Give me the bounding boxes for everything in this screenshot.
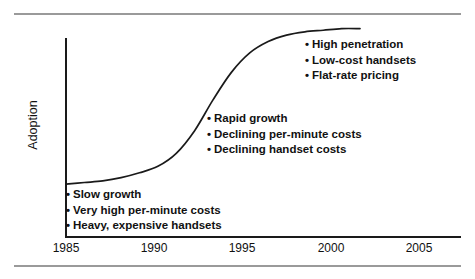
bullet-item: •Declining per-minute costs: [207, 127, 362, 143]
bullet-dot-icon: •: [305, 37, 312, 53]
bullet-label: Low-cost handsets: [312, 54, 416, 66]
bullet-dot-icon: •: [66, 218, 73, 234]
bullet-dot-icon: •: [207, 111, 214, 127]
bullet-item: •Rapid growth: [207, 111, 362, 127]
annotation-rapid-growth-phase: •Rapid growth•Declining per-minute costs…: [207, 111, 362, 158]
bullet-dot-icon: •: [305, 53, 312, 69]
bullet-dot-icon: •: [207, 127, 214, 143]
bullet-label: Very high per-minute costs: [73, 204, 221, 216]
bullet-label: Declining handset costs: [214, 143, 346, 155]
bullet-item: •Declining handset costs: [207, 142, 362, 158]
bullet-label: Declining per-minute costs: [214, 128, 362, 140]
bullet-label: Flat-rate pricing: [312, 69, 399, 81]
bullet-item: •Heavy, expensive handsets: [66, 218, 222, 234]
bullet-item: •Low-cost handsets: [305, 53, 416, 69]
annotation-slow-growth-phase: •Slow growth•Very high per-minute costs•…: [66, 187, 222, 234]
bullet-dot-icon: •: [66, 187, 73, 203]
bullet-item: •High penetration: [305, 37, 416, 53]
bullet-label: Rapid growth: [214, 112, 287, 124]
bullet-item: •Very high per-minute costs: [66, 203, 222, 219]
bullet-item: •Slow growth: [66, 187, 222, 203]
bullet-item: •Flat-rate pricing: [305, 68, 416, 84]
chart-plot-area: Adoption 19851990199520002005 •High pene…: [0, 0, 475, 279]
annotation-saturation-phase: •High penetration•Low-cost handsets•Flat…: [305, 37, 416, 84]
bullet-dot-icon: •: [66, 203, 73, 219]
bullet-label: Heavy, expensive handsets: [73, 219, 222, 231]
bullet-label: Slow growth: [73, 188, 141, 200]
bullet-label: High penetration: [312, 38, 403, 50]
bullet-dot-icon: •: [305, 68, 312, 84]
adoption-s-curve-figure: Adoption 19851990199520002005 •High pene…: [0, 0, 475, 279]
bullet-dot-icon: •: [207, 142, 214, 158]
